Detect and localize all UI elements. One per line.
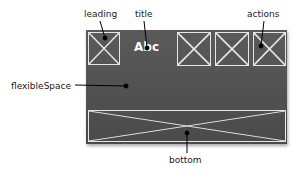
title-text: Abc xyxy=(134,40,159,54)
flexible-space-label: flexibleSpace xyxy=(11,81,71,91)
leading-placeholder xyxy=(88,32,120,65)
placeholder-cross-icon xyxy=(89,33,119,64)
bottom-label: bottom xyxy=(169,155,202,165)
action-placeholder-1 xyxy=(177,32,211,66)
placeholder-cross-icon xyxy=(216,33,248,65)
title-label: title xyxy=(135,9,153,19)
placeholder-cross-icon xyxy=(178,33,210,65)
leading-label: leading xyxy=(84,9,117,19)
bottom-placeholder xyxy=(88,110,286,142)
action-placeholder-3 xyxy=(253,32,286,66)
action-placeholder-2 xyxy=(215,32,249,66)
actions-label: actions xyxy=(247,9,279,19)
placeholder-cross-icon xyxy=(254,33,285,65)
placeholder-cross-icon xyxy=(89,111,285,141)
